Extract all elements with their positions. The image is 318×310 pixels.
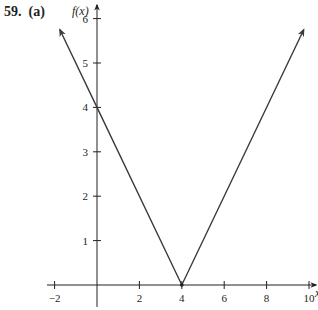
x-tick-label: 10: [304, 292, 316, 304]
x-tick-label: −2: [49, 292, 61, 304]
ticks: −2246810123456: [49, 13, 315, 304]
y-tick-label: 4: [83, 101, 89, 113]
series: [60, 30, 304, 287]
y-tick-label: 5: [83, 57, 89, 69]
x-tick-label: 4: [179, 292, 185, 304]
function-graph: xf(x) −2246810123456: [0, 0, 318, 310]
vertex-point: [180, 283, 184, 287]
x-tick-label: 6: [221, 292, 227, 304]
y-tick-label: 6: [83, 13, 89, 25]
function-line: [60, 30, 304, 285]
y-tick-label: 2: [83, 190, 89, 202]
x-axis-title: x: [314, 286, 318, 300]
x-tick-label: 8: [264, 292, 270, 304]
x-tick-label: 2: [137, 292, 143, 304]
y-tick-label: 3: [83, 146, 89, 158]
y-tick-label: 1: [83, 235, 89, 247]
